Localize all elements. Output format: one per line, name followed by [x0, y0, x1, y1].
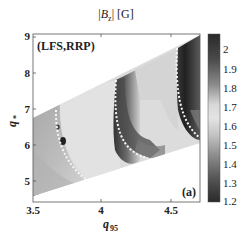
- x-tick-label: 4.5: [164, 204, 178, 216]
- svg-text:95: 95: [110, 224, 118, 233]
- y-tick-label: 5: [25, 175, 31, 187]
- svg-text:q: q: [103, 217, 109, 231]
- y-axis-label: q *: [5, 115, 21, 127]
- colorbar-tick: 1.8: [223, 82, 237, 94]
- y-tick-label: 7: [25, 103, 31, 115]
- colorbar-tick: 1.2: [223, 195, 237, 207]
- x-tick-label: 4: [98, 204, 104, 216]
- heatmap-data: [33, 34, 200, 202]
- colorbar-tick: 1.3: [223, 177, 237, 189]
- panel-label: (a): [182, 185, 196, 199]
- colorbar-tick: 2: [223, 43, 229, 55]
- colorbar: 2 1.9 1.8 1.7 1.6 1.5 1.4 1.3 1.2: [208, 34, 237, 207]
- y-axis: 5 6 7 8 9 q *: [5, 30, 36, 187]
- colorbar-tick: 1.6: [223, 120, 237, 132]
- y-tick-label: 6: [25, 139, 31, 151]
- colorbar-tick: 1.5: [223, 139, 237, 151]
- x-axis-label: q 95: [103, 217, 118, 233]
- colorbar-tick: 1.9: [223, 63, 237, 75]
- svg-text:*: *: [12, 115, 21, 119]
- colorbar-tick: 1.4: [223, 158, 237, 170]
- x-tick-label: 3.5: [26, 204, 40, 216]
- y-tick-label: 9: [25, 30, 31, 42]
- svg-text:q: q: [5, 121, 19, 127]
- colorbar-tick: 1.7: [223, 101, 237, 113]
- panel-annotation: (LFS,RRP): [37, 39, 95, 53]
- y-tick-label: 8: [25, 67, 31, 79]
- heatmap-figure: 5 6 7 8 9 q * 3.5 4 4.5 q 95 (LFS,RRP) (…: [0, 0, 249, 236]
